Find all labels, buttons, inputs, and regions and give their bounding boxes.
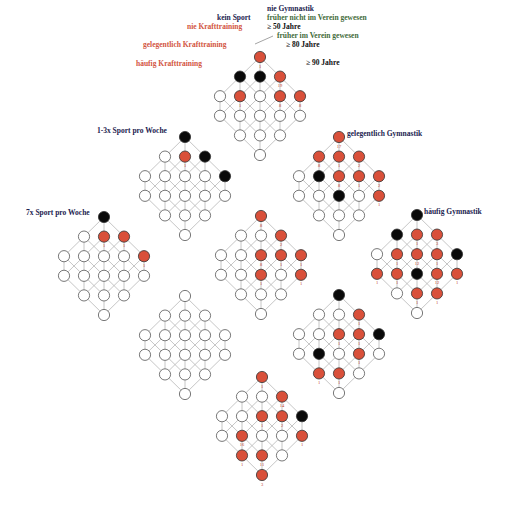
label-sport-1-3x: 1-3x Sport pro Woche: [97, 127, 167, 135]
lattice-node-center-red: [255, 250, 266, 261]
node-count: 2: [378, 183, 380, 188]
lattice-node-lower-left-white: [199, 310, 210, 321]
lattice-node-sport-7x-white: [118, 270, 129, 281]
lattice-node-haeufig-gymnastik-black: [391, 229, 402, 240]
lattice-node-sport-1-3x-white: [159, 190, 170, 201]
lattice-node-sport-1-3x-white: [159, 171, 170, 182]
node-count: 1: [318, 380, 320, 385]
lattice-node-sport-7x-white: [118, 290, 129, 301]
label-ge-50-jahre: ≥ 50 Jahre: [267, 23, 301, 31]
lattice-node-sport-1-3x-white: [139, 171, 150, 182]
lattice-node-sport-1-3x-white: [199, 171, 210, 182]
node-count: 8: [338, 183, 341, 188]
label-haeufig-gymnastik: häufig Gymnastik: [424, 208, 482, 216]
lattice-node-top-white: [234, 110, 245, 121]
node-count: 1: [280, 262, 282, 267]
lattice-node-bottom-white: [216, 411, 227, 422]
lattice-node-lower-right-black: [313, 348, 324, 359]
lattice-node-sport-1-3x-white: [199, 210, 210, 221]
lattice-node-center-white: [235, 250, 246, 261]
lattice-node-sport-1-3x-white: [139, 190, 150, 201]
node-count: 8: [260, 223, 263, 228]
lattice-node-top-white: [274, 110, 285, 121]
lattice-diagram: 1191881178128121111828111113112111121111…: [0, 0, 513, 513]
label-sport-7x: 7x Sport pro Woche: [26, 209, 90, 217]
node-count: 1: [261, 423, 263, 428]
lattice-node-lower-right-white: [333, 348, 344, 359]
node-count: 17: [337, 144, 342, 149]
lattice-node-haeufig-gymnastik-red: [451, 268, 462, 279]
lattice-node-lower-left-white: [159, 349, 170, 360]
lattice-node-gelegentlich-gymnastik-white: [333, 229, 344, 240]
lattice-node-haeufig-gymnastik-white: [371, 249, 382, 260]
node-count: 1: [456, 280, 458, 285]
lattice-node-lower-right-white: [313, 329, 324, 340]
lattice-node-sport-7x-white: [78, 270, 89, 281]
lattice-node-sport-7x-white: [78, 231, 89, 242]
lattice-node-lower-right-white: [353, 368, 364, 379]
lattice-node-gelegentlich-gymnastik-red: [373, 171, 384, 182]
lattice-node-center-white: [275, 269, 286, 280]
node-count: 1: [143, 263, 145, 268]
lattice-node-haeufig-gymnastik-red: [391, 268, 402, 279]
label-ge-80-jahre: ≥ 80 Jahre: [286, 41, 320, 49]
lattice-node-gelegentlich-gymnastik-red: [333, 151, 344, 162]
lattice-node-top-white: [234, 130, 245, 141]
lattice-node-bottom-white: [256, 391, 267, 402]
lattice-node-bottom-red: [276, 391, 287, 402]
lattice-node-bottom-red: [236, 430, 247, 441]
lattice-node-gelegentlich-gymnastik-white: [333, 210, 344, 221]
lattice-node-sport-1-3x-white: [199, 190, 210, 201]
node-count: 1: [358, 360, 360, 365]
node-count: 1: [378, 202, 380, 207]
lattice-node-center-white: [235, 289, 246, 300]
node-count: 14: [280, 403, 285, 408]
lattice-node-bottom-red: [276, 411, 287, 422]
lattice-node-lower-right-black: [333, 289, 344, 300]
lattice-node-top-white: [254, 91, 265, 102]
lattice-node-lower-left-white: [179, 369, 190, 380]
lattice-node-sport-1-3x-black: [219, 171, 230, 182]
lattice-node-gelegentlich-gymnastik-white: [293, 171, 304, 182]
lattice-node-bottom-red: [236, 450, 247, 461]
node-count: 1: [436, 300, 438, 305]
lattice-node-sport-7x-white: [78, 290, 89, 301]
lattice-node-lower-left-white: [219, 349, 230, 360]
node-count: 16: [240, 442, 245, 447]
lattice-node-lower-left-white: [159, 310, 170, 321]
lattice-node-lower-right-red: [313, 368, 324, 379]
lattice-node-haeufig-gymnastik-black: [411, 209, 422, 220]
lattice-node-sport-1-3x-white: [179, 171, 190, 182]
label-haeufig-krafttraining: häufig Krafttraining: [136, 60, 202, 68]
node-count: 2: [358, 163, 360, 168]
lattice-node-sport-1-3x-black: [199, 151, 210, 162]
lattice-node-top-black: [254, 71, 265, 82]
lattice-node-top-white: [254, 110, 265, 121]
lattice-node-sport-7x-white: [98, 290, 109, 301]
node-count: 8: [318, 163, 321, 168]
lattice-node-gelegentlich-gymnastik-red: [353, 171, 364, 182]
node-count: 1: [436, 261, 438, 266]
lattice-node-top-black: [234, 71, 245, 82]
lattice-node-lower-left-white: [179, 310, 190, 321]
node-count: 1: [396, 280, 398, 285]
lattice-node-sport-1-3x-white: [179, 190, 190, 201]
lattice-node-lower-right-white: [293, 329, 304, 340]
lattice-node-lower-left-white: [139, 330, 150, 341]
lattice-node-sport-1-3x-red: [179, 151, 190, 162]
lattice-node-top-red: [254, 51, 265, 62]
lattice-node-sport-7x-black: [98, 211, 109, 222]
lattice-node-gelegentlich-gymnastik-red: [353, 151, 364, 162]
lattice-node-lower-left-white: [219, 330, 230, 341]
lattice-node-gelegentlich-gymnastik-white: [313, 190, 324, 201]
lattice-node-bottom-black: [296, 411, 307, 422]
lattice-node-lower-right-red: [353, 329, 364, 340]
lattice-node-center-red: [295, 250, 306, 261]
lattice-node-lower-left-white: [199, 369, 210, 380]
lattice-node-sport-7x-white: [58, 251, 69, 262]
lattice-node-bottom-white: [276, 450, 287, 461]
lattice-node-haeufig-gymnastik-black: [451, 249, 462, 260]
label-connectors: [255, 36, 273, 44]
lattice-node-center-red: [295, 269, 306, 280]
node-count: 1: [239, 103, 241, 108]
